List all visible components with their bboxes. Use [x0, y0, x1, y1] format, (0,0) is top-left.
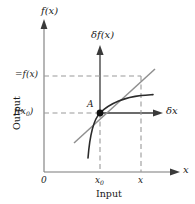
y-tick-base-fx: f(x) [23, 69, 38, 79]
main-x-axis-label: x [183, 165, 189, 175]
point-a-marker [97, 110, 104, 117]
function-curve [88, 95, 153, 158]
x-tick-label-x0: x0 [95, 176, 104, 186]
x-tick-sub-x0: 0 [100, 179, 104, 186]
y-tick-prefix-equals: = [15, 69, 23, 79]
inner-x-axis-label: δx [166, 106, 178, 116]
y-tick-suffix-fx0: ) [30, 106, 34, 116]
point-a-label: A [87, 100, 94, 109]
x-tick-label-x: x [138, 176, 143, 186]
differential-diagram: f(x) δf(x) δx x =f(x) f(x0) 0 x0 x A Out… [0, 0, 195, 204]
y-tick-label-fx: =f(x) [15, 70, 38, 79]
inner-y-axis-arrowhead [96, 45, 103, 55]
inner-x-axis-arrowhead [153, 109, 163, 116]
x-axis-name-input: Input [96, 189, 122, 199]
main-x-axis-arrowhead [170, 169, 180, 176]
x-tick-base-x: x [138, 175, 143, 185]
origin-label: 0 [41, 176, 47, 185]
main-y-axis-label: f(x) [41, 6, 58, 16]
main-y-axis-arrowhead [41, 19, 48, 29]
inner-y-axis-label: δf(x) [91, 30, 114, 40]
y-axis-name-output: Output [12, 96, 22, 130]
